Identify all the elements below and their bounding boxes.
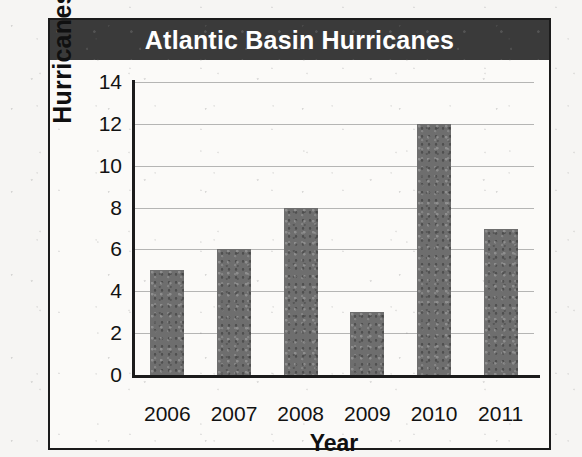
bar-2010 [417, 124, 451, 375]
x-axis-line [132, 375, 540, 378]
bar-slot [201, 82, 268, 375]
bar-2009 [350, 312, 384, 375]
y-axis-tick-label: 6 [110, 237, 122, 261]
bar-2011 [484, 229, 518, 376]
y-axis-tick-label: 14 [99, 70, 122, 94]
x-axis-tick-label: 2011 [467, 402, 534, 426]
y-axis-tick-label: 10 [99, 154, 122, 178]
y-axis-title: Hurricanes [48, 0, 77, 172]
x-axis-tick-label: 2006 [134, 402, 201, 426]
y-axis-tick-label: 12 [99, 112, 122, 136]
chart-title-banner: Atlantic Basin Hurricanes [50, 20, 549, 60]
bar-2007 [217, 249, 251, 375]
bar-slot [401, 82, 468, 375]
x-axis-tick-label: 2007 [201, 402, 268, 426]
y-axis-tick-label: 8 [110, 196, 122, 220]
chart-figure-frame: Atlantic Basin Hurricanes Hurricanes 024… [48, 18, 551, 450]
bar-slot [267, 82, 334, 375]
bar-2006 [150, 270, 184, 375]
bar-slot [134, 82, 201, 375]
bar-slot [334, 82, 401, 375]
x-axis-title: Year [134, 430, 534, 457]
x-axis-tick-label: 2008 [267, 402, 334, 426]
chart-title: Atlantic Basin Hurricanes [145, 26, 454, 55]
plot-area [134, 82, 534, 375]
y-axis-tick-label: 0 [110, 363, 122, 387]
y-axis-tick-label: 4 [110, 279, 122, 303]
x-axis-tick-label: 2010 [401, 402, 468, 426]
bar-slot [467, 82, 534, 375]
bar-2008 [284, 208, 318, 375]
x-axis-tick-labels: 200620072008200920102011 [134, 402, 534, 426]
y-axis-tick-label: 2 [110, 321, 122, 345]
bars-layer [134, 82, 534, 375]
x-axis-tick-label: 2009 [334, 402, 401, 426]
